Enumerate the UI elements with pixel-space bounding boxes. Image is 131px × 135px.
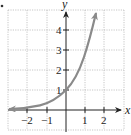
y-tick-label: 1	[56, 84, 62, 96]
x-tick-label: −1	[41, 114, 53, 126]
chart-canvas: y x −2 −1 1 2 1 2 3 4	[0, 0, 131, 135]
x-tick-label: 1	[82, 114, 88, 126]
bullet-dot	[1, 5, 4, 8]
y-axis-label: y	[61, 0, 68, 11]
x-axis-label: x	[124, 103, 131, 117]
exponential-curve	[9, 13, 96, 109]
y-tick-label: 4	[56, 24, 62, 36]
x-tick-label: 2	[101, 114, 107, 126]
y-tick-label: 2	[56, 64, 62, 76]
y-tick-label: 3	[56, 44, 62, 56]
x-tick-label: −2	[21, 114, 33, 126]
